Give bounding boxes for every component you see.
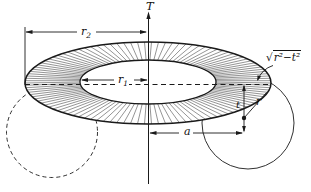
radius-label: r	[256, 96, 261, 107]
arrowhead-r2-left	[26, 30, 33, 34]
radical-sign: √	[266, 51, 273, 63]
diagram-canvas	[0, 0, 311, 192]
arrowhead-a-left	[150, 131, 157, 135]
arrowhead-t-down	[242, 126, 246, 133]
inner-radius-subscript: 1	[123, 79, 128, 88]
arrowhead-r2-right	[140, 30, 147, 34]
plane-offset-label: t	[236, 100, 240, 110]
center-distance-label: a	[183, 126, 192, 137]
half-chord-label: √r²−t²	[265, 52, 302, 63]
arrowhead-a-right	[236, 131, 243, 135]
radicand-expression: r²−t²	[273, 50, 301, 63]
outer-radius-label: r2	[80, 26, 92, 37]
axis-label: T	[146, 1, 154, 13]
annulus-diagram: T r2 r1 a t r √r²−t²	[0, 0, 311, 192]
inner-radius-label: r1	[117, 74, 129, 85]
outer-radius-subscript: 2	[86, 31, 91, 40]
